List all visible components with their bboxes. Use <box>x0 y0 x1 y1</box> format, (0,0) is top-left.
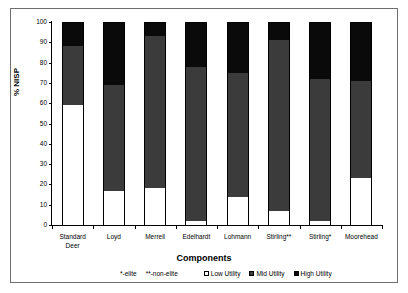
bar-loyd <box>103 22 125 225</box>
plot-area: 0102030405060708090100 <box>52 22 382 225</box>
x-tick-label: Moorehead <box>335 232 387 241</box>
y-tick-mark <box>49 83 52 84</box>
y-tick-label: 10 <box>40 200 47 209</box>
bar-stirlingstarstar <box>268 22 290 225</box>
y-tick-label: 70 <box>40 78 47 87</box>
y-tick-mark <box>49 103 52 104</box>
bar-segment-low-utility <box>62 105 84 225</box>
x-tick-mark <box>341 225 342 229</box>
bar-segment-high-utility <box>103 22 125 85</box>
bar-segment-mid-utility <box>185 67 207 221</box>
x-tick-mark <box>217 225 218 229</box>
legend-note-elite: *-elite <box>120 270 137 277</box>
bar-segment-mid-utility <box>309 79 331 221</box>
legend-entry-mid-utility: Mid Utility <box>249 270 284 277</box>
x-tick-mark <box>300 225 301 229</box>
bar-segment-low-utility <box>350 178 372 225</box>
x-tick-mark <box>176 225 177 229</box>
bar-segment-mid-utility <box>144 36 166 188</box>
y-tick-mark <box>49 205 52 206</box>
bar-segment-mid-utility <box>62 46 84 105</box>
bar-segment-low-utility <box>309 221 331 225</box>
y-tick-mark <box>49 63 52 64</box>
x-axis-label: Components <box>0 253 408 263</box>
x-tick-mark <box>135 225 136 229</box>
x-tick-mark <box>93 225 94 229</box>
bar-edelhardt <box>185 22 207 225</box>
bar-segment-low-utility <box>185 221 207 225</box>
bar-standard-deer <box>62 22 84 225</box>
bar-segment-high-utility <box>350 22 372 81</box>
legend-entry-low-utility: Low Utility <box>204 270 241 277</box>
bar-segment-mid-utility <box>227 73 249 197</box>
legend-label-low-utility: Low Utility <box>211 270 241 277</box>
bar-segment-low-utility <box>227 197 249 225</box>
bar-segment-low-utility <box>103 191 125 226</box>
bar-segment-high-utility <box>144 22 166 36</box>
legend-swatch-low-utility-icon <box>204 271 209 276</box>
x-tick-mark <box>382 225 383 229</box>
y-tick-label: 0 <box>43 220 47 229</box>
y-tick-mark <box>49 144 52 145</box>
bar-segment-high-utility <box>309 22 331 79</box>
bar-segment-low-utility <box>144 188 166 225</box>
x-tick-mark <box>258 225 259 229</box>
y-tick-label: 40 <box>40 139 47 148</box>
bar-segment-mid-utility <box>103 85 125 191</box>
chart-legend: *-elite **-non-elite Low Utility Mid Uti… <box>120 270 332 277</box>
bar-stirlingstar <box>309 22 331 225</box>
legend-entry-high-utility: High Utility <box>294 270 332 277</box>
bar-segment-high-utility <box>268 22 290 40</box>
bar-segment-high-utility <box>62 22 84 46</box>
y-tick-label: 60 <box>40 98 47 107</box>
legend-label-mid-utility: Mid Utility <box>256 270 284 277</box>
legend-swatch-high-utility-icon <box>294 271 299 276</box>
y-tick-label: 100 <box>36 17 47 26</box>
legend-label-high-utility: High Utility <box>301 270 332 277</box>
bar-merrell <box>144 22 166 225</box>
y-tick-label: 50 <box>40 119 47 128</box>
legend-swatch-mid-utility-icon <box>249 271 254 276</box>
y-tick-mark <box>49 22 52 23</box>
bar-moorehead <box>350 22 372 225</box>
y-tick-label: 20 <box>40 179 47 188</box>
y-tick-mark <box>49 124 52 125</box>
bar-segment-high-utility <box>227 22 249 73</box>
bar-segment-mid-utility <box>268 40 290 211</box>
legend-note-non-elite: **-non-elite <box>146 270 178 277</box>
bar-lohmann <box>227 22 249 225</box>
y-tick-mark <box>49 42 52 43</box>
y-tick-label: 30 <box>40 159 47 168</box>
y-tick-mark <box>49 184 52 185</box>
y-axis-label: % NISP <box>12 68 21 96</box>
x-tick-mark <box>52 225 53 229</box>
y-tick-label: 80 <box>40 58 47 67</box>
chart-figure: % NISP Components 0102030405060708090100… <box>0 0 408 293</box>
y-tick-label: 90 <box>40 37 47 46</box>
bar-segment-mid-utility <box>350 81 372 178</box>
bar-segment-low-utility <box>268 211 290 225</box>
y-tick-mark <box>49 164 52 165</box>
bar-segment-high-utility <box>185 22 207 67</box>
